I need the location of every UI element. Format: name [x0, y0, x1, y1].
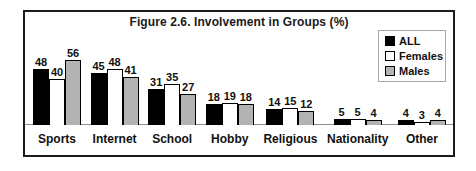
bar-value-label: 41 [124, 64, 136, 76]
all-swatch-icon [385, 36, 395, 46]
bars: 554 [334, 30, 382, 125]
bar-col-all: 4 [398, 107, 414, 125]
category-label-school: School [152, 125, 192, 153]
bar-col-all: 31 [148, 76, 164, 125]
bar-col-all: 14 [266, 96, 282, 125]
bar-males [123, 77, 139, 125]
bar-group-sports: 484056Sports [33, 30, 81, 153]
bar-value-label: 18 [240, 91, 252, 103]
category-label-hobby: Hobby [211, 125, 248, 153]
category-label-internet: Internet [93, 125, 137, 153]
category-label-other: Other [406, 125, 438, 153]
bar-all [91, 73, 107, 125]
bars: 484056 [33, 30, 81, 125]
bar-all [33, 69, 49, 125]
bars: 313527 [148, 30, 196, 125]
bar-col-all: 5 [334, 106, 350, 125]
bars: 141512 [266, 30, 314, 125]
bar-col-males: 4 [430, 107, 446, 125]
bar-group-internet: 454841Internet [91, 30, 139, 153]
bar-value-label: 5 [339, 106, 345, 118]
bar-col-all: 18 [206, 91, 222, 125]
legend-item-males: Males [385, 65, 441, 77]
females-swatch-icon [385, 51, 395, 61]
bar-all [266, 109, 282, 125]
legend-item-females: Females [385, 50, 441, 62]
bar-value-label: 3 [419, 109, 425, 121]
category-label-nationality: Nationality [327, 125, 388, 153]
bar-value-label: 4 [403, 107, 409, 119]
figure-frame: Figure 2.6. Involvement in Groups (%) AL… [23, 10, 455, 157]
bar-males [65, 60, 81, 125]
bar-col-males: 56 [65, 47, 81, 125]
bar-value-label: 4 [435, 107, 441, 119]
bar-value-label: 48 [35, 56, 47, 68]
bar-value-label: 19 [224, 90, 236, 102]
bar-group-school: 313527School [148, 30, 196, 153]
bar-males [238, 104, 254, 125]
bar-value-label: 4 [371, 107, 377, 119]
bar-col-all: 48 [33, 56, 49, 125]
bar-females [107, 69, 123, 125]
bar-col-females: 3 [414, 109, 430, 125]
bar-col-males: 18 [238, 91, 254, 125]
bars: 454841 [91, 30, 139, 125]
bars: 181918 [206, 30, 254, 125]
bar-males [298, 111, 314, 125]
bar-group-hobby: 181918Hobby [206, 30, 254, 153]
males-swatch-icon [385, 66, 395, 76]
bar-value-label: 56 [67, 47, 79, 59]
bar-value-label: 40 [51, 66, 63, 78]
bar-col-females: 48 [107, 56, 123, 125]
bar-col-females: 15 [282, 95, 298, 125]
bar-all [148, 89, 164, 125]
bar-all [206, 104, 222, 125]
bar-col-males: 41 [123, 64, 139, 125]
legend: ALL Females Males [378, 30, 446, 82]
legend-item-all: ALL [385, 35, 441, 47]
bar-col-females: 35 [164, 71, 180, 125]
bar-value-label: 48 [108, 56, 120, 68]
bar-value-label: 27 [182, 81, 194, 93]
figure-canvas: Figure 2.6. Involvement in Groups (%) AL… [0, 0, 476, 171]
bar-value-label: 14 [268, 96, 280, 108]
bar-col-males: 27 [180, 81, 196, 125]
bar-males [180, 94, 196, 125]
bar-col-all: 45 [91, 60, 107, 125]
legend-label-males: Males [399, 65, 430, 77]
legend-label-females: Females [399, 50, 443, 62]
bar-col-females: 40 [49, 66, 65, 125]
bar-females [282, 108, 298, 125]
category-label-sports: Sports [38, 125, 76, 153]
bar-value-label: 15 [284, 95, 296, 107]
category-label-religious: Religious [263, 125, 317, 153]
bar-col-males: 12 [298, 98, 314, 125]
bar-col-females: 19 [222, 90, 238, 125]
bar-value-label: 18 [208, 91, 220, 103]
bar-value-label: 35 [166, 71, 178, 83]
bar-col-males: 4 [366, 107, 382, 125]
figure-title: Figure 2.6. Involvement in Groups (%) [25, 15, 453, 29]
bar-value-label: 45 [92, 60, 104, 72]
bar-females [49, 79, 65, 125]
bar-females [164, 84, 180, 125]
legend-label-all: ALL [399, 35, 420, 47]
bar-group-religious: 141512Religious [263, 30, 317, 153]
bar-col-females: 5 [350, 106, 366, 125]
bar-value-label: 12 [300, 98, 312, 110]
bar-females [222, 103, 238, 125]
bar-value-label: 5 [355, 106, 361, 118]
bar-value-label: 31 [150, 76, 162, 88]
